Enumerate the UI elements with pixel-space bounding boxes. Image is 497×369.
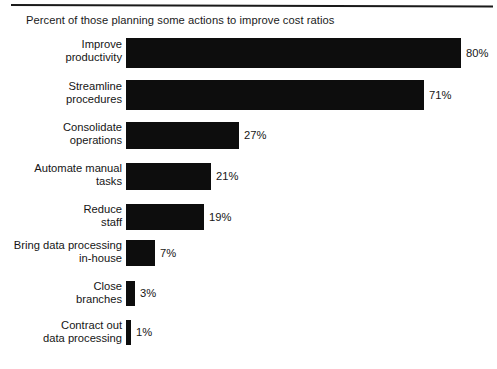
bar-value-label: 71%	[429, 89, 451, 102]
category-label-line1: Improve	[0, 38, 122, 51]
chart-page: Percent of those planning some actions t…	[0, 0, 497, 369]
bar[interactable]	[126, 204, 204, 230]
bar[interactable]	[126, 320, 131, 345]
bar[interactable]	[126, 240, 155, 266]
category-label: Contract out data processing	[0, 319, 122, 345]
category-label: Streamline procedures	[0, 80, 122, 106]
bar[interactable]	[126, 281, 135, 306]
category-label: Consolidate operations	[0, 121, 122, 147]
bar-value-label: 7%	[160, 247, 176, 260]
bar-value-label: 19%	[209, 211, 231, 224]
category-label-line2: branches	[0, 293, 122, 306]
category-label-line2: in-house	[0, 252, 122, 265]
category-label: Automate manual tasks	[0, 162, 122, 188]
category-label-line1: Close	[0, 280, 122, 293]
bar-value-label: 27%	[244, 129, 266, 142]
bar-value-label: 80%	[466, 47, 488, 60]
category-label: Close branches	[0, 280, 122, 306]
bar-value-label: 3%	[140, 287, 156, 300]
category-label-line2: tasks	[0, 175, 122, 188]
category-label: Bring data processing in-house	[0, 239, 122, 265]
category-label-line1: Bring data processing	[0, 239, 122, 252]
category-label-line1: Contract out	[0, 319, 122, 332]
category-label-line1: Streamline	[0, 80, 122, 93]
bar[interactable]	[126, 122, 239, 149]
bar-chart-plot-area: Improve productivity 80% Streamline proc…	[0, 0, 497, 369]
category-label-line2: data processing	[0, 332, 122, 345]
category-label-line2: staff	[0, 216, 122, 229]
category-label-line2: productivity	[0, 51, 122, 64]
category-label-line1: Reduce	[0, 203, 122, 216]
bar[interactable]	[126, 163, 211, 190]
category-label-line2: operations	[0, 134, 122, 147]
category-label-line2: procedures	[0, 93, 122, 106]
bar[interactable]	[126, 38, 461, 68]
category-label-line1: Automate manual	[0, 162, 122, 175]
bar-value-label: 1%	[136, 326, 152, 339]
bar[interactable]	[126, 80, 424, 110]
category-label-line1: Consolidate	[0, 121, 122, 134]
bar-value-label: 21%	[216, 170, 238, 183]
category-label: Improve productivity	[0, 38, 122, 64]
category-label: Reduce staff	[0, 203, 122, 229]
